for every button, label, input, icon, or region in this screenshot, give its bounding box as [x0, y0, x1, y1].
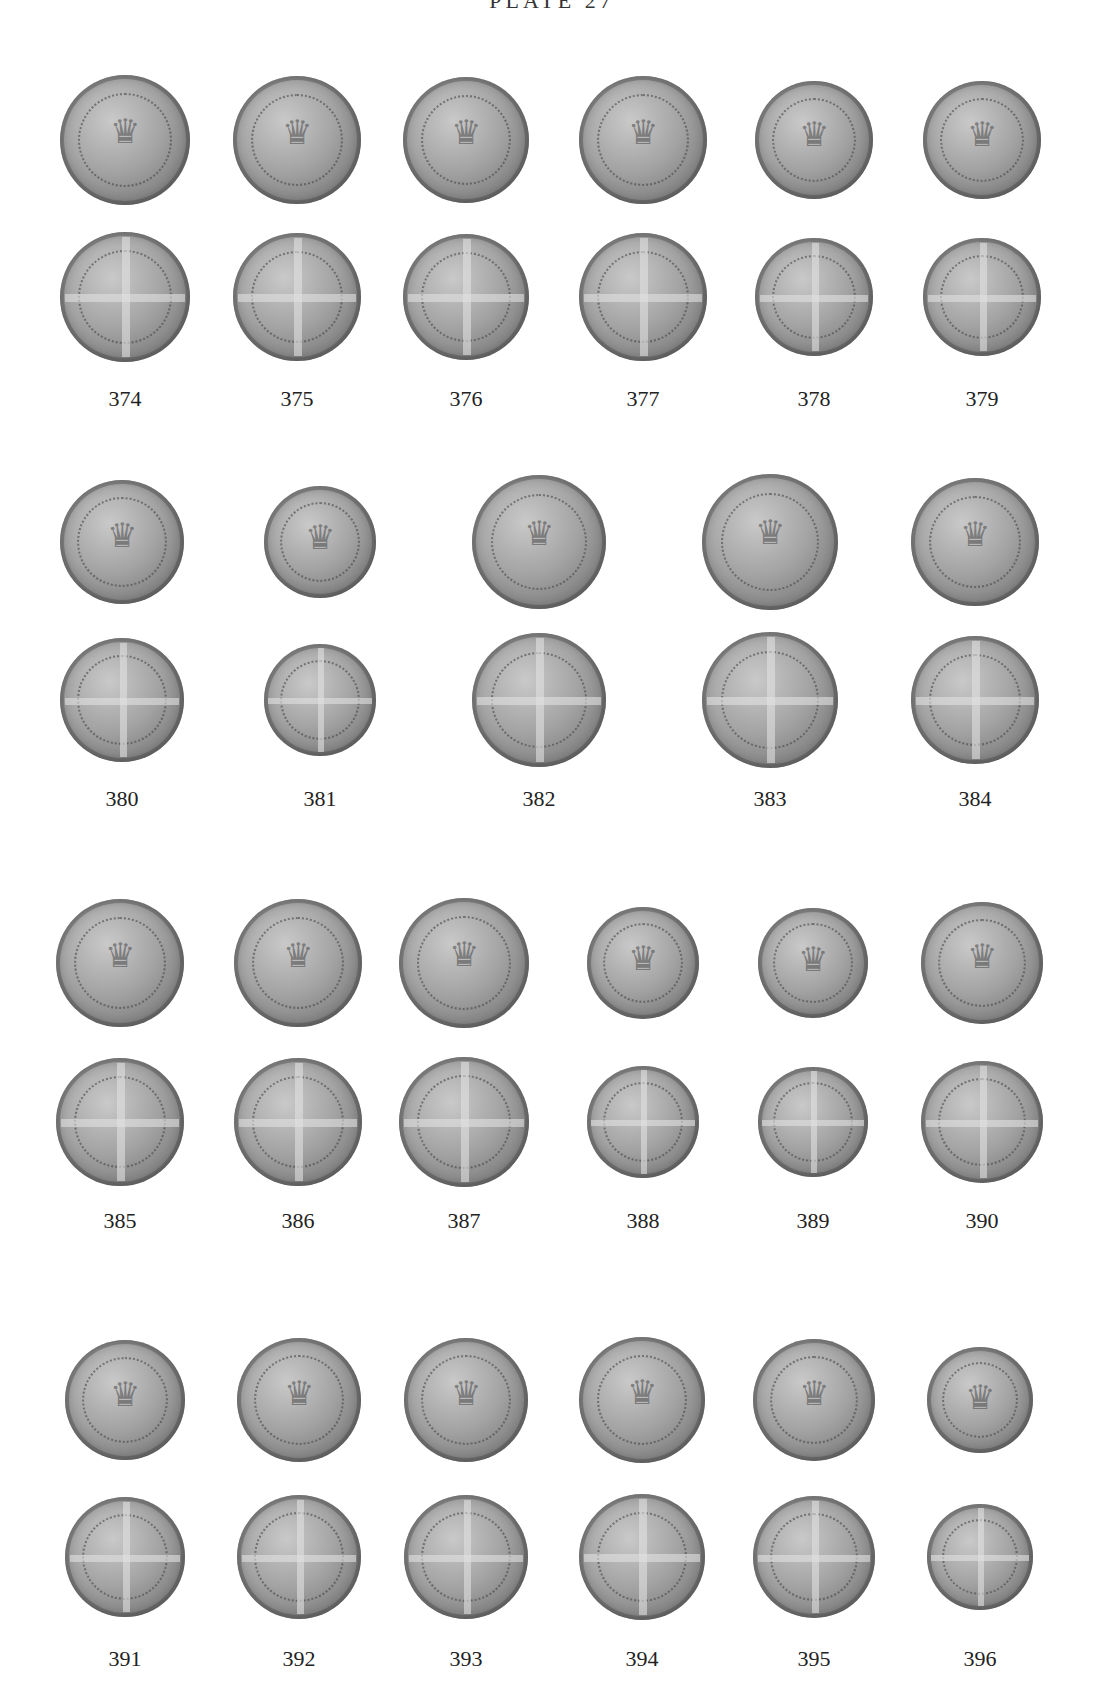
coin-378-obverse: [755, 81, 873, 199]
coin-386-reverse: [234, 1058, 362, 1186]
coin-385-obverse: [56, 899, 184, 1027]
coin-395-reverse: [753, 1496, 875, 1618]
coin-380-obverse: [60, 480, 184, 604]
coin-number-label: 388: [603, 1208, 683, 1234]
coin-388-obverse: [587, 907, 699, 1019]
coin-number-label: 390: [942, 1208, 1022, 1234]
coin-number-label: 376: [426, 386, 506, 412]
coin-number-label: 381: [280, 786, 360, 812]
coin-387-obverse: [399, 898, 529, 1028]
coin-number-label: 392: [259, 1646, 339, 1672]
coin-number-label: 380: [82, 786, 162, 812]
coin-number-label: 383: [730, 786, 810, 812]
coin-382-obverse: [472, 475, 606, 609]
coin-number-label: 395: [774, 1646, 854, 1672]
coin-388-reverse: [587, 1066, 699, 1178]
coin-391-obverse: [65, 1340, 185, 1460]
coin-377-obverse: [579, 76, 707, 204]
coin-389-reverse: [758, 1067, 868, 1177]
coin-381-reverse: [264, 644, 376, 756]
coin-392-obverse: [237, 1338, 361, 1462]
coin-number-label: 377: [603, 386, 683, 412]
coin-393-obverse: [404, 1338, 528, 1462]
coin-number-label: 379: [942, 386, 1022, 412]
coin-385-reverse: [56, 1058, 184, 1186]
coin-375-reverse: [233, 233, 361, 361]
coin-number-label: 391: [85, 1646, 165, 1672]
coin-number-label: 389: [773, 1208, 853, 1234]
coin-396-obverse: [927, 1347, 1033, 1453]
coin-number-label: 396: [940, 1646, 1020, 1672]
coin-389-obverse: [758, 908, 868, 1018]
coin-375-obverse: [233, 76, 361, 204]
coin-number-label: 384: [935, 786, 1015, 812]
coin-383-reverse: [702, 632, 838, 768]
coin-384-reverse: [911, 636, 1039, 764]
plate-title: PLATE 27: [0, 0, 1104, 14]
coin-394-obverse: [579, 1337, 705, 1463]
coin-396-reverse: [927, 1504, 1033, 1610]
coin-number-label: 394: [602, 1646, 682, 1672]
coin-376-reverse: [403, 234, 529, 360]
coin-number-label: 375: [257, 386, 337, 412]
coin-390-obverse: [921, 902, 1043, 1024]
coin-384-obverse: [911, 478, 1039, 606]
coin-380-reverse: [60, 638, 184, 762]
coin-379-obverse: [923, 81, 1041, 199]
coin-394-reverse: [579, 1494, 705, 1620]
coin-number-label: 393: [426, 1646, 506, 1672]
coin-383-obverse: [702, 474, 838, 610]
coin-390-reverse: [921, 1061, 1043, 1183]
coin-392-reverse: [237, 1495, 361, 1619]
coin-387-reverse: [399, 1057, 529, 1187]
coin-number-label: 385: [80, 1208, 160, 1234]
coin-377-reverse: [579, 233, 707, 361]
coin-393-reverse: [404, 1495, 528, 1619]
coin-number-label: 378: [774, 386, 854, 412]
coin-381-obverse: [264, 486, 376, 598]
coin-379-reverse: [923, 238, 1041, 356]
coin-number-label: 387: [424, 1208, 504, 1234]
coin-number-label: 386: [258, 1208, 338, 1234]
coin-number-label: 374: [85, 386, 165, 412]
coin-382-reverse: [472, 633, 606, 767]
coin-391-reverse: [65, 1497, 185, 1617]
coin-number-label: 382: [499, 786, 579, 812]
coin-376-obverse: [403, 77, 529, 203]
coin-374-reverse: [60, 232, 190, 362]
coin-378-reverse: [755, 238, 873, 356]
coin-395-obverse: [753, 1339, 875, 1461]
coin-374-obverse: [60, 75, 190, 205]
coin-386-obverse: [234, 899, 362, 1027]
